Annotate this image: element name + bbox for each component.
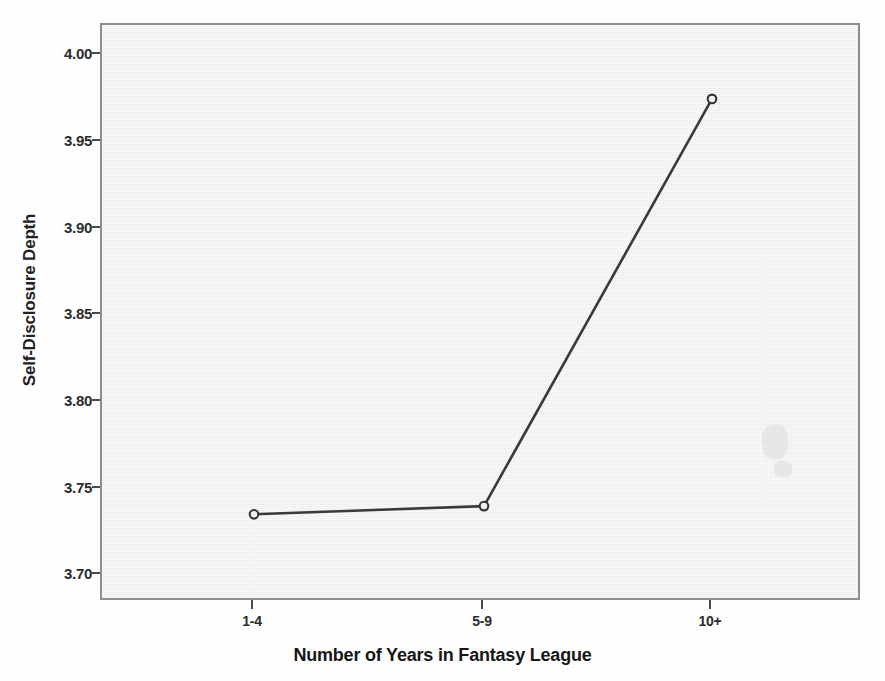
y-tick-mark xyxy=(92,399,100,401)
data-point-marker xyxy=(250,510,259,519)
plot-panel xyxy=(100,23,860,600)
y-tick-label: 4.00 xyxy=(40,45,92,62)
y-tick-mark xyxy=(92,139,100,141)
y-tick-label: 3.70 xyxy=(40,565,92,582)
chart-figure: Self-Disclosure Depth 4.00 3.95 3.90 3.8… xyxy=(0,0,885,681)
y-tick-mark xyxy=(92,226,100,228)
x-tick-mark xyxy=(709,600,711,609)
x-tick-mark xyxy=(251,600,253,609)
x-tick-label: 5-9 xyxy=(472,613,492,629)
y-tick-label: 3.80 xyxy=(40,392,92,409)
series-plot xyxy=(102,25,858,598)
x-axis-title: Number of Years in Fantasy League xyxy=(0,645,885,666)
y-tick-mark xyxy=(92,572,100,574)
y-tick-label: 3.90 xyxy=(40,219,92,236)
y-tick-label: 3.75 xyxy=(40,479,92,496)
y-tick-label: 3.85 xyxy=(40,305,92,322)
x-tick-mark xyxy=(481,600,483,609)
data-point-marker xyxy=(480,502,489,511)
data-point-marker xyxy=(708,95,717,104)
x-tick-label: 10+ xyxy=(698,613,721,629)
x-tick-label: 1-4 xyxy=(242,613,262,629)
series-line xyxy=(254,99,712,514)
y-tick-mark xyxy=(92,52,100,54)
y-tick-mark xyxy=(92,486,100,488)
y-tick-label: 3.95 xyxy=(40,132,92,149)
y-axis-tick-labels: 4.00 3.95 3.90 3.85 3.80 3.75 3.70 xyxy=(36,0,92,681)
y-tick-mark xyxy=(92,312,100,314)
